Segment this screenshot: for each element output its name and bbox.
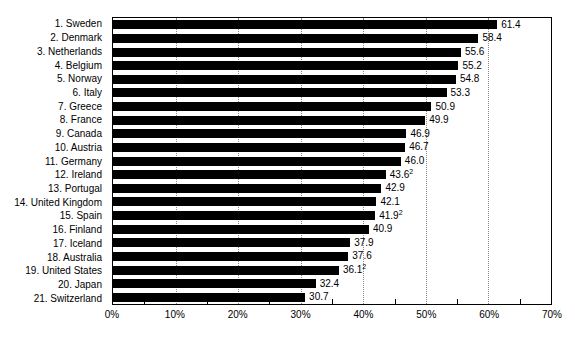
bar-row: 46.0 — [113, 154, 551, 168]
bar-value-label: 42.9 — [385, 183, 404, 193]
bar-row: 46.7 — [113, 141, 551, 155]
bar-row: 36.12 — [113, 263, 551, 277]
minor-tick — [269, 299, 270, 304]
category-label: 8. France — [0, 113, 107, 127]
category-label: 12. Ireland — [0, 168, 107, 182]
bar — [113, 184, 381, 193]
bar — [113, 116, 425, 125]
x-tick-label: 60% — [479, 309, 499, 320]
bar-value-label: 40.9 — [373, 224, 392, 234]
bar-value-label: 46.7 — [409, 142, 428, 152]
x-tick-label: 20% — [228, 309, 248, 320]
bar — [113, 211, 375, 220]
category-label: 4. Belgium — [0, 58, 107, 72]
category-label: 21. Switzerland — [0, 291, 107, 305]
bar-value-label: 53.3 — [451, 88, 470, 98]
bar-row: 61.4 — [113, 18, 551, 32]
minor-tick — [207, 299, 208, 304]
x-axis: 0%10%20%30%40%50%60%70% — [112, 309, 552, 323]
x-tick-label: 50% — [416, 309, 436, 320]
category-label: 5. Norway — [0, 72, 107, 86]
bar — [113, 157, 401, 166]
category-label: 20. Japan — [0, 278, 107, 292]
x-tick-label: 40% — [353, 309, 373, 320]
category-label: 13. Portugal — [0, 182, 107, 196]
plot-area: 61.458.455.655.254.853.350.949.946.946.7… — [112, 17, 552, 305]
bar-value-label: 42.1 — [380, 197, 399, 207]
bar — [113, 48, 461, 57]
bar — [113, 293, 305, 302]
footnote-marker: 2 — [399, 208, 403, 215]
category-label: 2. Denmark — [0, 31, 107, 45]
bar-value-label: 58.4 — [482, 33, 501, 43]
bar-value-label: 36.12 — [343, 265, 366, 275]
bar — [113, 102, 431, 111]
bar — [113, 252, 348, 261]
bar — [113, 143, 405, 152]
bar — [113, 170, 386, 179]
bar-row: 42.1 — [113, 195, 551, 209]
bar-row: 37.6 — [113, 250, 551, 264]
bar-row: 40.9 — [113, 222, 551, 236]
bars-layer: 61.458.455.655.254.853.350.949.946.946.7… — [113, 18, 551, 304]
bar-row: 55.2 — [113, 59, 551, 73]
category-label: 3. Netherlands — [0, 44, 107, 58]
bar-value-label: 37.9 — [354, 238, 373, 248]
bar-value-label: 43.62 — [390, 170, 413, 180]
bar-row: 37.9 — [113, 236, 551, 250]
category-label: 10. Austria — [0, 140, 107, 154]
bar-row: 43.62 — [113, 168, 551, 182]
footnote-marker: 2 — [362, 263, 366, 270]
bar-value-label: 46.9 — [410, 129, 429, 139]
bar-value-label: 32.4 — [320, 279, 339, 289]
bar-row: 54.8 — [113, 73, 551, 87]
bar-row: 32.4 — [113, 277, 551, 291]
bar-value-label: 55.6 — [465, 47, 484, 57]
x-tick-label: 0% — [105, 309, 119, 320]
bar — [113, 129, 406, 138]
bar-value-label: 61.4 — [501, 20, 520, 30]
bar — [113, 197, 376, 206]
bar-row: 50.9 — [113, 100, 551, 114]
minor-tick — [144, 299, 145, 304]
category-label: 7. Greece — [0, 99, 107, 113]
bar — [113, 88, 447, 97]
category-label: 17. Iceland — [0, 237, 107, 251]
bar-value-label: 37.6 — [352, 251, 371, 261]
category-label: 9. Canada — [0, 127, 107, 141]
category-label: 15. Spain — [0, 209, 107, 223]
category-labels-column: 1. Sweden2. Denmark3. Netherlands4. Belg… — [0, 17, 107, 305]
footnote-marker: 2 — [409, 167, 413, 174]
category-label: 14. United Kingdom — [0, 195, 107, 209]
bar — [113, 61, 458, 70]
bar-row: 58.4 — [113, 32, 551, 46]
bar — [113, 20, 497, 29]
bar-row: 55.6 — [113, 45, 551, 59]
bar-chart: 1. Sweden2. Denmark3. Netherlands4. Belg… — [0, 0, 575, 342]
bar — [113, 75, 456, 84]
bar — [113, 279, 316, 288]
bar-value-label: 54.8 — [460, 74, 479, 84]
x-tick-label: 70% — [542, 309, 562, 320]
bar — [113, 34, 478, 43]
bar-value-label: 46.0 — [405, 156, 424, 166]
bar-value-label: 41.92 — [379, 211, 402, 221]
bar-row: 42.9 — [113, 182, 551, 196]
bar — [113, 225, 369, 234]
bar — [113, 266, 339, 275]
minor-tick — [520, 299, 521, 304]
bar-value-label: 55.2 — [462, 61, 481, 71]
category-label: 1. Sweden — [0, 17, 107, 31]
x-tick-label: 10% — [165, 309, 185, 320]
bar-value-label: 50.9 — [435, 102, 454, 112]
bar-row: 41.92 — [113, 209, 551, 223]
minor-tick — [332, 299, 333, 304]
category-label: 6. Italy — [0, 86, 107, 100]
bar-row: 46.9 — [113, 127, 551, 141]
bar-row: 49.9 — [113, 113, 551, 127]
minor-tick — [457, 299, 458, 304]
bar-value-label: 30.7 — [309, 292, 328, 302]
bar — [113, 238, 350, 247]
category-label: 19. United States — [0, 264, 107, 278]
category-label: 16. Finland — [0, 223, 107, 237]
